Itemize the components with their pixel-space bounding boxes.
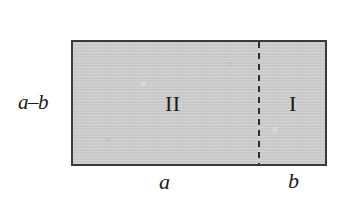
dashed-divider-line: [258, 42, 260, 164]
height-label-a-minus-b: a–b: [18, 92, 48, 113]
width-label-a: a: [159, 171, 170, 193]
figure-canvas: a–b II I a b: [0, 0, 345, 208]
width-label-b: b: [288, 170, 299, 192]
region-label-two: II: [165, 93, 181, 115]
region-label-one: I: [289, 93, 296, 115]
